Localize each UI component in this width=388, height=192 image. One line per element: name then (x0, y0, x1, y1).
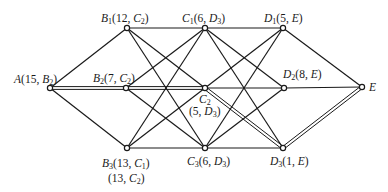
node-label-B3: B3(13, C1) (102, 157, 150, 173)
node-C2 (202, 85, 207, 90)
node-label-A: A(15, B2) (14, 73, 57, 89)
node-label-B3-alt: (13, C2) (108, 172, 145, 188)
node-label-C3: C3(6, D3) (187, 155, 230, 171)
optimal-edge-D3-E (282, 86, 361, 147)
node-label-D3: D3(1, E) (270, 155, 309, 171)
node-E (359, 84, 364, 89)
node-D3 (280, 145, 285, 150)
node-label-C1: C1(6, D3) (182, 12, 225, 28)
shortest-path-diagram: A(15, B2) B1(12, C2) B2(7, C2) B3(13, C1… (0, 0, 388, 192)
node-D2 (281, 85, 286, 90)
edge-A-B3 (50, 88, 127, 148)
node-label-D1: D1(5, E) (264, 12, 303, 28)
node-label-C2-value: (5, D3) (189, 105, 221, 121)
optimal-edge-D3-E (284, 88, 363, 149)
node-label-E: E (369, 81, 376, 93)
node-label-D2: D2(8, E) (283, 68, 322, 84)
node-label-B1: B1(12, C2) (101, 12, 149, 28)
edge-D2-E (284, 87, 362, 88)
node-label-B2: B2(7, C2) (93, 72, 135, 88)
node-B3 (124, 145, 129, 150)
node-C3 (202, 145, 207, 150)
